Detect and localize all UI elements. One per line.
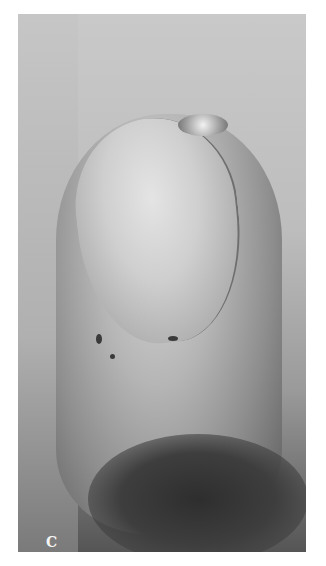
nail-fold-mark xyxy=(110,354,115,359)
nail-fold-mark xyxy=(168,336,178,341)
nail-tip-lesion xyxy=(178,114,228,136)
finger-shadow xyxy=(88,434,306,552)
nail-fold-mark xyxy=(96,334,102,344)
clinical-photo: C xyxy=(18,14,306,552)
panel-label: C xyxy=(46,534,57,550)
